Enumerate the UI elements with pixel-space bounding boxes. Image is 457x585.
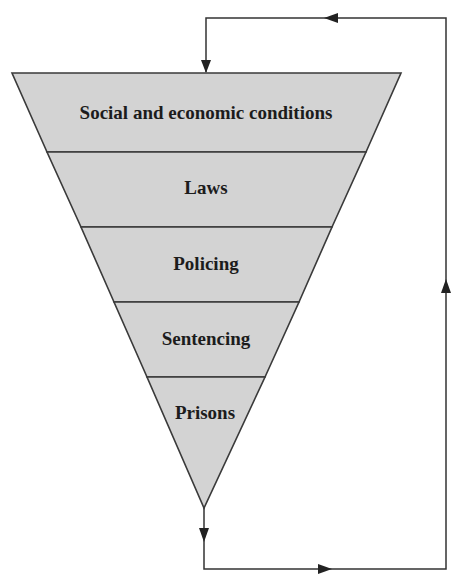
arrow-down-icon <box>201 60 211 73</box>
arrow-up-icon <box>441 279 451 293</box>
layer-label-sentencing: Sentencing <box>162 328 251 349</box>
funnel: Social and economic conditions Laws Poli… <box>12 73 401 508</box>
arrow-right-icon <box>318 564 332 574</box>
arrow-left-icon <box>324 13 338 23</box>
funnel-layer-prisons <box>147 377 265 508</box>
layer-label-policing: Policing <box>173 253 239 274</box>
funnel-diagram: Social and economic conditions Laws Poli… <box>0 0 457 585</box>
arrow-down-icon <box>199 528 209 542</box>
layer-label-social-economic: Social and economic conditions <box>80 102 333 123</box>
layer-label-laws: Laws <box>184 177 227 198</box>
layer-label-prisons: Prisons <box>175 402 235 423</box>
